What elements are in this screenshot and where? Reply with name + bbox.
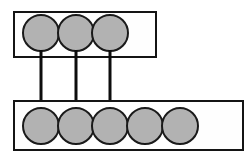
upper-set-node[interactable] bbox=[23, 15, 59, 51]
lower-set-node[interactable] bbox=[92, 108, 128, 144]
lower-set-node[interactable] bbox=[127, 108, 163, 144]
lower-set-node[interactable] bbox=[58, 108, 94, 144]
upper-set-node[interactable] bbox=[58, 15, 94, 51]
upper-set-node[interactable] bbox=[92, 15, 128, 51]
diagram-svg bbox=[0, 0, 252, 156]
diagram-canvas bbox=[0, 0, 252, 156]
lower-set-node[interactable] bbox=[23, 108, 59, 144]
upper-set-group bbox=[14, 12, 156, 57]
lower-set-group bbox=[14, 101, 243, 150]
lower-set-node[interactable] bbox=[162, 108, 198, 144]
